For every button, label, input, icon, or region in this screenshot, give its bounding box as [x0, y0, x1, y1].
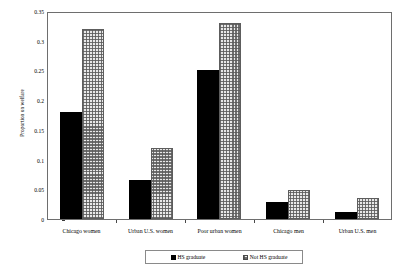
y-tick-label: 0.2	[37, 98, 44, 104]
legend-entry-hs-graduate: HS graduate	[171, 254, 205, 260]
bar	[60, 112, 82, 219]
y-tick-label: 0.05	[34, 187, 44, 193]
bar	[288, 190, 310, 219]
bar-groups	[48, 13, 391, 219]
bar-group	[60, 13, 104, 219]
x-category-label: Chicago women	[47, 227, 116, 241]
legend-label-not-hs-graduate: Not HS graduate	[250, 254, 288, 260]
bar	[335, 212, 357, 219]
x-tick-mark	[116, 220, 117, 223]
y-tick-label: 0.1	[37, 158, 44, 164]
legend-swatch-not-hs-graduate-icon	[243, 255, 248, 260]
x-category-label: Chicago men	[254, 227, 323, 241]
x-tick-mark	[254, 220, 255, 223]
y-tick-label: 0	[41, 217, 44, 223]
y-tick-label: 0.15	[34, 128, 44, 134]
legend-entry-not-hs-graduate: Not HS graduate	[243, 254, 287, 260]
welfare-proportion-bar-chart: Proportion on welfare 00.050.10.150.20.2…	[0, 0, 406, 272]
x-tick-mark	[185, 220, 186, 223]
y-axis-tick-labels: 00.050.10.150.20.250.30.35	[18, 0, 44, 272]
x-axis-tick-marks	[47, 220, 392, 224]
chart-legend: HS graduate Not HS graduate	[145, 250, 303, 264]
x-category-label: Poor urban women	[185, 227, 254, 241]
bar	[219, 23, 241, 219]
bar-group	[266, 13, 310, 219]
bar	[357, 198, 379, 219]
y-tick-label: 0.25	[34, 68, 44, 74]
x-axis-category-labels: Chicago womenUrban U.S. womenPoor urban …	[47, 227, 392, 241]
bar	[266, 202, 288, 219]
x-tick-mark	[323, 220, 324, 223]
bar-group	[129, 13, 173, 219]
x-category-label: Urban U.S. women	[116, 227, 185, 241]
y-tick-label: 0.35	[34, 9, 44, 15]
legend-label-hs-graduate: HS graduate	[178, 254, 206, 260]
plot-area	[47, 12, 392, 220]
bar	[197, 70, 219, 219]
bar	[82, 29, 104, 219]
x-category-label: Urban U.S. men	[323, 227, 392, 241]
bar	[129, 180, 151, 219]
bar-group	[197, 13, 241, 219]
legend-swatch-hs-graduate-icon	[171, 255, 176, 260]
bar	[151, 148, 173, 219]
bar-group	[335, 13, 379, 219]
y-tick-label: 0.3	[37, 39, 44, 45]
